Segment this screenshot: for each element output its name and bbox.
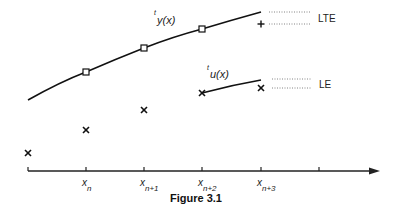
cross-marker-icon [83,127,89,133]
svg-text:n+3: n+3 [262,184,276,193]
cross-marker-icon [25,150,31,156]
lte-indicator [269,12,311,24]
svg-text:y(x): y(x) [156,14,176,26]
label-u-of-x: t u(x) [207,64,229,80]
tick-label-xn1: x n+1 [139,177,159,193]
figure-caption: Figure 3.1 [170,192,222,204]
cross-marker-icon [258,85,264,91]
square-marker-icon [199,26,205,32]
le-indicator [272,79,311,88]
tick-label-xn3: x n+3 [256,177,276,193]
axis-arrow-icon [369,168,380,175]
lte-label: LTE [318,13,336,24]
le-label: LE [319,79,332,90]
x-axis [28,167,380,175]
svg-text:n+1: n+1 [145,184,159,193]
label-y-of-x: t y(x) [154,9,176,26]
square-marker-icon [83,69,89,75]
cross-marker-icon [141,107,147,113]
plus-marker-icon [258,21,265,28]
svg-text:u(x): u(x) [210,68,229,80]
square-marker-icon [141,45,147,51]
svg-text:n: n [87,184,92,193]
tick-label-xn: x n [81,177,92,193]
tick-label-xn2: x n+2 [197,177,217,193]
curve-u [202,80,261,93]
figure-canvas: x n x n+1 x n+2 x n+3 t y(x) t u(x) [0,0,400,221]
